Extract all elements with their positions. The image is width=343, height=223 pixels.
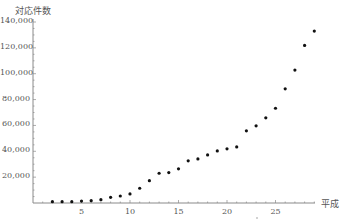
data-point bbox=[119, 194, 122, 197]
data-point bbox=[245, 129, 248, 132]
x-axis-title: 平成 bbox=[321, 197, 339, 210]
y-tick-label: 140,000 bbox=[0, 16, 30, 25]
data-point bbox=[61, 200, 64, 203]
y-tick-label: 100,000 bbox=[0, 68, 30, 77]
data-point bbox=[274, 107, 277, 110]
axes bbox=[33, 19, 315, 203]
data-point bbox=[51, 200, 54, 203]
y-tick-label: 60,000 bbox=[0, 119, 30, 128]
data-point bbox=[158, 172, 161, 175]
data-point bbox=[128, 192, 131, 195]
data-point bbox=[206, 153, 209, 156]
data-point bbox=[167, 171, 170, 174]
data-point bbox=[293, 68, 296, 71]
x-tick-label: 20 bbox=[217, 207, 237, 216]
data-point bbox=[303, 44, 306, 47]
data-point bbox=[264, 116, 267, 119]
x-tick-label: 10 bbox=[120, 207, 140, 216]
data-point bbox=[216, 149, 219, 152]
data-point bbox=[80, 199, 83, 202]
scatter-chart bbox=[0, 0, 343, 223]
data-point bbox=[235, 145, 238, 148]
data-point bbox=[70, 200, 73, 203]
data-point bbox=[148, 179, 151, 182]
data-point bbox=[177, 167, 180, 170]
x-tick-label: 5 bbox=[72, 207, 92, 216]
x-tick-label: 15 bbox=[169, 207, 189, 216]
data-point bbox=[99, 198, 102, 201]
data-point bbox=[255, 124, 258, 127]
data-point bbox=[284, 87, 287, 90]
x-tick-label: 25 bbox=[266, 207, 286, 216]
data-point bbox=[196, 157, 199, 160]
y-tick-label: 20,000 bbox=[0, 171, 30, 180]
y-tick-label: 40,000 bbox=[0, 145, 30, 154]
data-points bbox=[51, 29, 316, 203]
stray-mark bbox=[256, 217, 258, 219]
y-tick-label: 120,000 bbox=[0, 42, 30, 51]
y-tick-label: 80,000 bbox=[0, 94, 30, 103]
data-point bbox=[313, 29, 316, 32]
data-point bbox=[90, 199, 93, 202]
data-point bbox=[138, 187, 141, 190]
data-point bbox=[187, 159, 190, 162]
data-point bbox=[225, 147, 228, 150]
data-point bbox=[109, 196, 112, 199]
